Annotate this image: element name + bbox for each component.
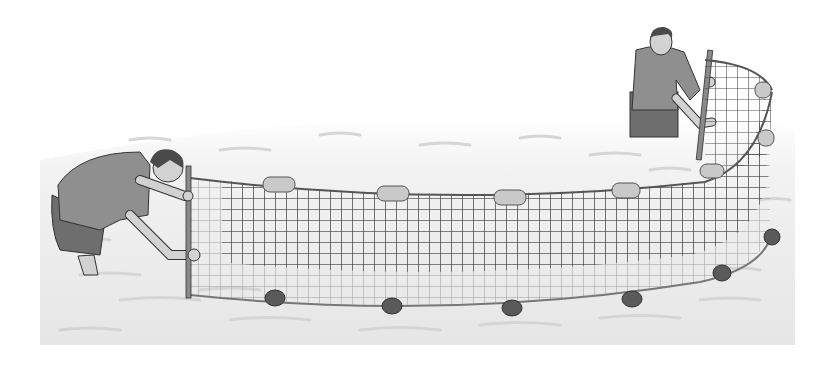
- left-hand-top: [183, 191, 193, 201]
- left-pole: [186, 166, 191, 298]
- seine-net-illustration: [0, 0, 825, 367]
- left-hand-bottom: [188, 249, 200, 261]
